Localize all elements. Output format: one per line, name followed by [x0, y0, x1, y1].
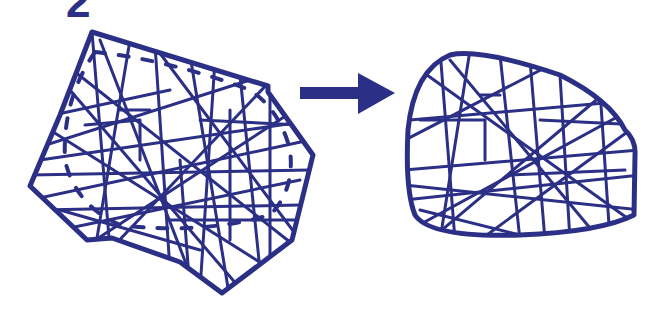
right-arrow-icon	[300, 73, 395, 114]
left-fiber-network	[30, 32, 320, 300]
figure: 2	[0, 0, 657, 311]
figure-label: 2	[66, 0, 90, 24]
right-fiber-network	[405, 50, 640, 240]
diagram-canvas	[0, 0, 657, 311]
